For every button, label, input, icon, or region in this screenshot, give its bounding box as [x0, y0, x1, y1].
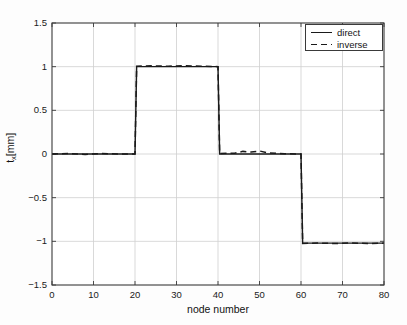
x-tick-label: 40	[203, 289, 233, 300]
y-axis-label: tx[mm]	[4, 113, 18, 183]
y-axis-label-unit: [mm]	[4, 133, 16, 156]
x-tick-label: 70	[328, 289, 358, 300]
x-axis-label: node number	[52, 303, 384, 315]
legend-label-inverse: inverse	[337, 40, 368, 50]
x-tick-label: 30	[162, 289, 192, 300]
y-tick-label: −1	[8, 235, 47, 246]
legend-swatch-solid-icon	[311, 32, 332, 34]
x-tick-label: 50	[245, 289, 275, 300]
x-tick-label: 20	[120, 289, 150, 300]
legend-box[interactable]: direct inverse	[305, 24, 383, 51]
legend-swatch-dashed-icon	[311, 44, 332, 45]
y-tick-label: −0.5	[8, 192, 47, 203]
legend-entry-inverse[interactable]: inverse	[306, 38, 382, 51]
x-tick-label: 60	[286, 289, 316, 300]
y-axis-label-subscript: x	[9, 156, 18, 160]
y-tick-label: 1.5	[8, 17, 47, 28]
x-tick-label: 10	[79, 289, 109, 300]
x-tick-label: 80	[369, 289, 399, 300]
y-tick-label: 1	[8, 61, 47, 72]
x-tick-label: 0	[37, 289, 67, 300]
y-axis-label-base: t	[4, 160, 16, 163]
legend-label-direct: direct	[337, 28, 360, 38]
chart-figure: −1.5−1−0.500.511.5 01020304050607080 nod…	[0, 0, 407, 325]
